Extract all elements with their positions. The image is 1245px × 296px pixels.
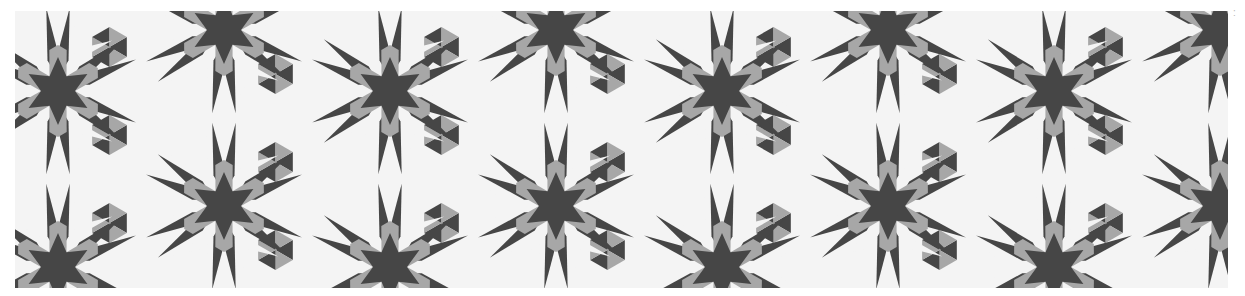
- tessellation-image: [15, 11, 1228, 288]
- pattern-canvas: :: [0, 0, 1245, 296]
- star-tessellation-graphic: [15, 11, 1228, 288]
- edge-mark: :: [1233, 8, 1241, 18]
